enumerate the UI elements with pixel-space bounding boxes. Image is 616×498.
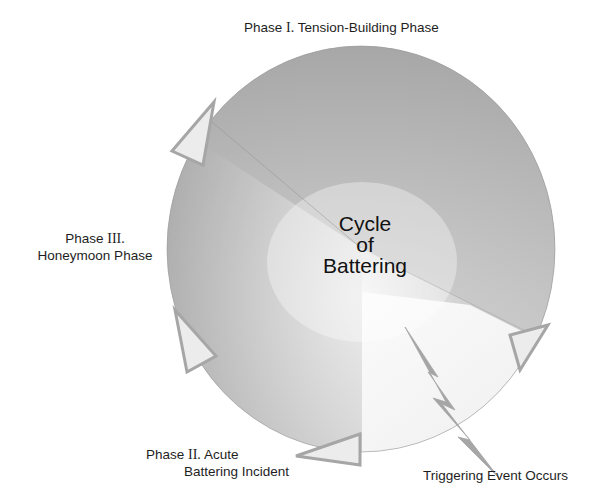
phase-2-prefix: Phase [146, 447, 184, 462]
phase-2-name-line1: Acute [204, 447, 239, 462]
phase-3-name: Honeymoon Phase [20, 247, 170, 264]
phase-3-prefix: Phase [65, 231, 103, 246]
phase-3-roman: III. [107, 231, 125, 246]
phase-1-label: Phase I. Tension-Building Phase [244, 19, 439, 36]
phase-1-roman: I. [286, 20, 294, 35]
center-title: Cycle of Battering [300, 213, 430, 276]
phase-1-name: Tension-Building Phase [298, 20, 439, 35]
phase-3-label: Phase III. Honeymoon Phase [20, 230, 170, 264]
cycle-of-battering-diagram: Cycle of Battering Phase I. Tension-Buil… [0, 0, 616, 498]
center-title-line3: Battering [300, 255, 430, 276]
center-title-line2: of [300, 234, 430, 255]
phase-2-name-line2: Battering Incident [146, 463, 289, 480]
center-title-line1: Cycle [300, 213, 430, 234]
trigger-label: Triggering Event Occurs [423, 467, 568, 484]
phase-2-roman: II. [188, 447, 201, 462]
phase-2-label: Phase II. Acute Battering Incident [146, 446, 289, 480]
phase-1-prefix: Phase [244, 20, 282, 35]
